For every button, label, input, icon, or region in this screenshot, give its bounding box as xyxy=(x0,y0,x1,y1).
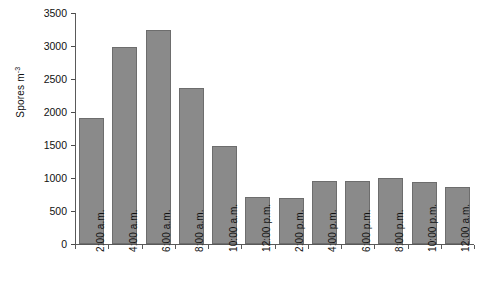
y-tick-label: 500 xyxy=(33,206,67,216)
x-tick-label: 8:00 p.m. xyxy=(395,209,405,252)
y-axis-title: Spores m-3 xyxy=(14,42,26,142)
x-tick-mark xyxy=(308,245,309,249)
x-tick-label: 10:00 a.m. xyxy=(229,204,239,252)
y-tick-mark xyxy=(71,211,75,212)
x-tick-mark xyxy=(275,245,276,249)
x-tick-label: 2:00 a.m. xyxy=(96,209,106,252)
x-tick-label: 4:00 a.m. xyxy=(129,209,139,252)
x-tick-mark xyxy=(108,245,109,249)
x-tick-label: 12:00 a.m. xyxy=(461,204,471,252)
x-tick-mark xyxy=(142,245,143,249)
y-tick-mark xyxy=(71,79,75,80)
y-axis-title-text: Spores m xyxy=(15,73,26,117)
x-tick-mark xyxy=(408,245,409,249)
x-tick-mark xyxy=(441,245,442,249)
x-tick-mark xyxy=(341,245,342,249)
y-tick-mark xyxy=(71,13,75,14)
x-tick-label: 2:00 p.m. xyxy=(295,209,305,252)
x-tick-label: 6:00 a.m. xyxy=(162,209,172,252)
x-tick-label: 10:00 p.m. xyxy=(428,204,438,252)
y-tick-label: 3000 xyxy=(33,41,67,51)
x-tick-mark xyxy=(208,245,209,249)
y-tick-label: 2500 xyxy=(33,74,67,84)
x-tick-label: 6:00 p.m. xyxy=(362,209,372,252)
x-tick-mark xyxy=(374,245,375,249)
y-tick-label: 1000 xyxy=(33,173,67,183)
y-tick-label: 2000 xyxy=(33,107,67,117)
y-axis-title-exponent: -3 xyxy=(14,67,21,74)
x-tick-label: 4:00 p.m. xyxy=(328,209,338,252)
x-tick-label: 8:00 a.m. xyxy=(195,209,205,252)
y-tick-mark xyxy=(71,145,75,146)
y-tick-label: 0 xyxy=(33,239,67,249)
x-tick-label: 12:00 p.m. xyxy=(262,204,272,252)
y-tick-label: 3500 xyxy=(33,8,67,18)
y-tick-mark xyxy=(71,46,75,47)
x-tick-mark xyxy=(241,245,242,249)
y-tick-label: 1500 xyxy=(33,140,67,150)
x-tick-mark xyxy=(75,245,76,249)
y-axis-line xyxy=(75,13,76,245)
x-tick-mark xyxy=(175,245,176,249)
y-tick-mark xyxy=(71,112,75,113)
x-tick-mark xyxy=(474,245,475,249)
y-tick-mark xyxy=(71,178,75,179)
bar-chart: Spores m-3 0500100015002000250030003500 … xyxy=(0,0,494,307)
